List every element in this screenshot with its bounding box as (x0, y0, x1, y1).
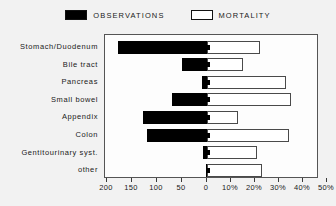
category-label: Stomach/Duodenum (20, 42, 98, 51)
axis-tick-label: 30% (270, 183, 286, 192)
axis-tick-label: 0 (204, 183, 209, 192)
bar-observations (147, 129, 207, 142)
legend-item-observations: OBSERVATIONS (65, 10, 164, 20)
bar-group (105, 164, 317, 177)
bar-mortality (207, 93, 291, 106)
zero-line-tick (207, 97, 210, 102)
legend-label-observations: OBSERVATIONS (93, 11, 164, 20)
bar-group (105, 146, 317, 159)
axis-tick (181, 178, 182, 182)
hollow-square-icon (191, 10, 213, 20)
axis-tick-label: 50 (176, 183, 185, 192)
axis-tick (254, 178, 255, 182)
axis-tick (302, 178, 303, 182)
category-label: Appendix (62, 112, 98, 121)
axis-tick (106, 178, 107, 182)
axis-tick (131, 178, 132, 182)
bar-mortality (207, 41, 260, 54)
filled-square-icon (65, 10, 87, 20)
axis-tick (230, 178, 231, 182)
bar-group (105, 111, 317, 124)
zero-line-tick (207, 115, 210, 120)
category-label: other (78, 165, 98, 174)
bar-chart: OBSERVATIONS MORTALITY Stomach/DuodenumB… (0, 0, 336, 206)
axis-tick (156, 178, 157, 182)
bar-observations (143, 111, 207, 124)
category-axis-labels: Stomach/DuodenumBile tractPancreasSmall … (0, 34, 102, 178)
zero-line-tick (207, 168, 210, 173)
bar-observations (172, 93, 207, 106)
value-axis: 20015010050010%20%30%40%50% (104, 178, 318, 206)
axis-tick-label: 10% (222, 183, 238, 192)
axis-tick (278, 178, 279, 182)
bar-observations (118, 41, 207, 54)
axis-tick-label: 200 (99, 183, 113, 192)
category-label: Bile tract (63, 59, 98, 68)
category-label: Colon (75, 130, 98, 139)
axis-tick-label: 50% (318, 183, 334, 192)
bar-group (105, 129, 317, 142)
axis-tick (326, 178, 327, 182)
zero-line-tick (207, 80, 210, 85)
bar-group (105, 41, 317, 54)
bar-mortality (207, 129, 289, 142)
axis-tick-label: 100 (149, 183, 163, 192)
bar-mortality (207, 146, 257, 159)
bar-group (105, 76, 317, 89)
category-label: Gentitourinary syst. (21, 147, 98, 156)
bar-mortality (207, 76, 286, 89)
plot-area (104, 34, 318, 178)
zero-line-tick (207, 62, 210, 67)
bar-observations (182, 58, 207, 71)
axis-tick (206, 178, 207, 182)
axis-tick-label: 20% (246, 183, 262, 192)
bar-mortality (207, 58, 243, 71)
category-label: Pancreas (62, 77, 99, 86)
legend-item-mortality: MORTALITY (191, 10, 271, 20)
chart-legend: OBSERVATIONS MORTALITY (0, 10, 336, 20)
axis-tick-label: 40% (294, 183, 310, 192)
bar-group (105, 93, 317, 106)
bar-mortality (207, 111, 238, 124)
category-label: Small bowel (51, 94, 98, 103)
bar-group (105, 58, 317, 71)
axis-tick-label: 150 (124, 183, 138, 192)
bar-mortality (207, 164, 262, 177)
zero-line-tick (207, 45, 210, 50)
zero-line-tick (207, 150, 210, 155)
legend-label-mortality: MORTALITY (219, 11, 271, 20)
zero-line-tick (207, 133, 210, 138)
